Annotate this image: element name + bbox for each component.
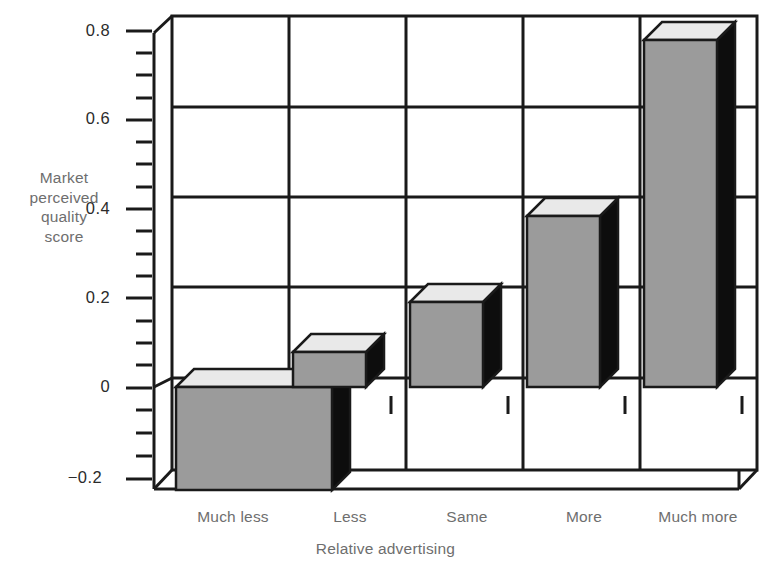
bar-same-face — [410, 302, 483, 387]
bar-less — [293, 334, 384, 387]
plot-area — [0, 0, 771, 570]
x-tick-label-less: Less — [285, 508, 415, 526]
x-tick-label-more: More — [519, 508, 649, 526]
bar-much-more-face — [644, 40, 717, 387]
bar-more-face — [527, 216, 600, 387]
x-tick-label-same: Same — [402, 508, 532, 526]
bar-same — [410, 284, 501, 387]
bar-more-side — [600, 198, 618, 387]
zero-line — [154, 378, 172, 387]
bar-less-face — [293, 352, 366, 387]
bar-much-more-side — [717, 22, 735, 387]
bar-more — [527, 198, 618, 387]
bar-same-top — [410, 284, 501, 302]
bar-more-top — [527, 198, 618, 216]
y-axis-ticks — [126, 31, 152, 479]
x-tick-label-much-less: Much less — [168, 508, 298, 526]
x-tick-label-much-more: Much more — [633, 508, 763, 526]
bar-much-more — [644, 22, 735, 387]
bar-much-more-top — [644, 22, 735, 40]
x-axis-title: Relative advertising — [0, 540, 771, 558]
bar-much-less-face — [176, 387, 332, 490]
bar-less-top — [293, 334, 384, 352]
bar-chart: Market perceived quality score 0.8 0.6 0… — [0, 0, 771, 570]
